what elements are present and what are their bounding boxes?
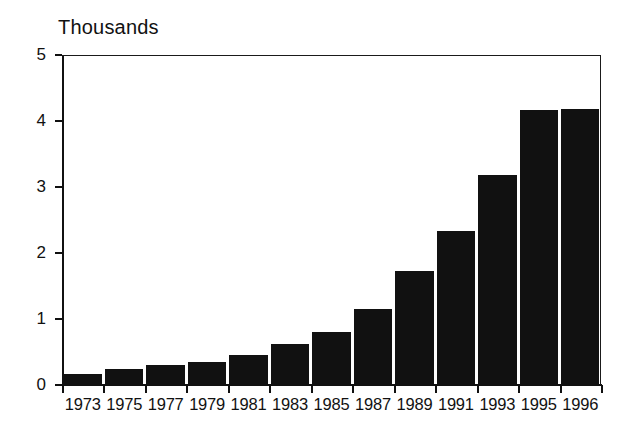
y-axis-tick	[55, 318, 62, 320]
bar	[478, 175, 516, 385]
x-axis-tick	[560, 385, 562, 393]
x-axis-tick	[435, 385, 437, 393]
bar	[437, 231, 475, 385]
x-axis-tick	[145, 385, 147, 393]
bar	[188, 362, 226, 385]
y-axis-tick-label: 2	[20, 243, 46, 263]
chart-title: Thousands	[58, 16, 159, 39]
y-axis-tick-label: 4	[20, 111, 46, 131]
x-axis-tick-label: 1989	[394, 395, 435, 414]
bar	[64, 374, 102, 385]
bar	[105, 369, 143, 385]
x-axis-tick-label: 1991	[435, 395, 476, 414]
bar	[271, 344, 309, 385]
x-axis-tick	[518, 385, 520, 393]
x-axis-tick	[477, 385, 479, 393]
bar	[561, 109, 599, 385]
bar	[395, 271, 433, 385]
x-axis-tick	[601, 385, 603, 393]
bar	[312, 332, 350, 385]
y-axis-tick	[55, 252, 62, 254]
x-axis-tick-label: 1977	[145, 395, 186, 414]
x-axis-tick-label: 1996	[560, 395, 601, 414]
y-axis-tick	[55, 384, 62, 386]
x-axis-tick-label: 1987	[352, 395, 393, 414]
x-axis-tick	[103, 385, 105, 393]
y-axis-tick-label: 5	[20, 45, 46, 65]
y-axis-tick	[55, 186, 62, 188]
x-axis-tick	[352, 385, 354, 393]
x-axis-tick	[311, 385, 313, 393]
x-axis-tick-label: 1985	[311, 395, 352, 414]
x-axis-tick-label: 1973	[62, 395, 103, 414]
x-axis-tick	[186, 385, 188, 393]
x-axis-tick	[269, 385, 271, 393]
bar	[146, 365, 184, 385]
bar	[354, 309, 392, 385]
x-axis-tick-label: 1979	[186, 395, 227, 414]
bar	[229, 355, 267, 385]
x-axis-tick-label: 1995	[518, 395, 559, 414]
bar	[520, 110, 558, 385]
x-axis-tick-label: 1993	[477, 395, 518, 414]
x-axis-tick	[228, 385, 230, 393]
y-axis-tick	[55, 120, 62, 122]
x-axis-tick-label: 1975	[103, 395, 144, 414]
x-axis-tick-label: 1983	[269, 395, 310, 414]
bar-chart-figure: Thousands 012345 19731975197719791981198…	[0, 0, 630, 444]
x-axis-tick	[62, 385, 64, 393]
x-axis-tick-label: 1981	[228, 395, 269, 414]
bar-series	[62, 55, 601, 385]
x-axis-tick	[394, 385, 396, 393]
y-axis-tick-label: 1	[20, 309, 46, 329]
y-axis-tick	[55, 54, 62, 56]
y-axis-tick-label: 0	[20, 375, 46, 395]
y-axis-tick-label: 3	[20, 177, 46, 197]
